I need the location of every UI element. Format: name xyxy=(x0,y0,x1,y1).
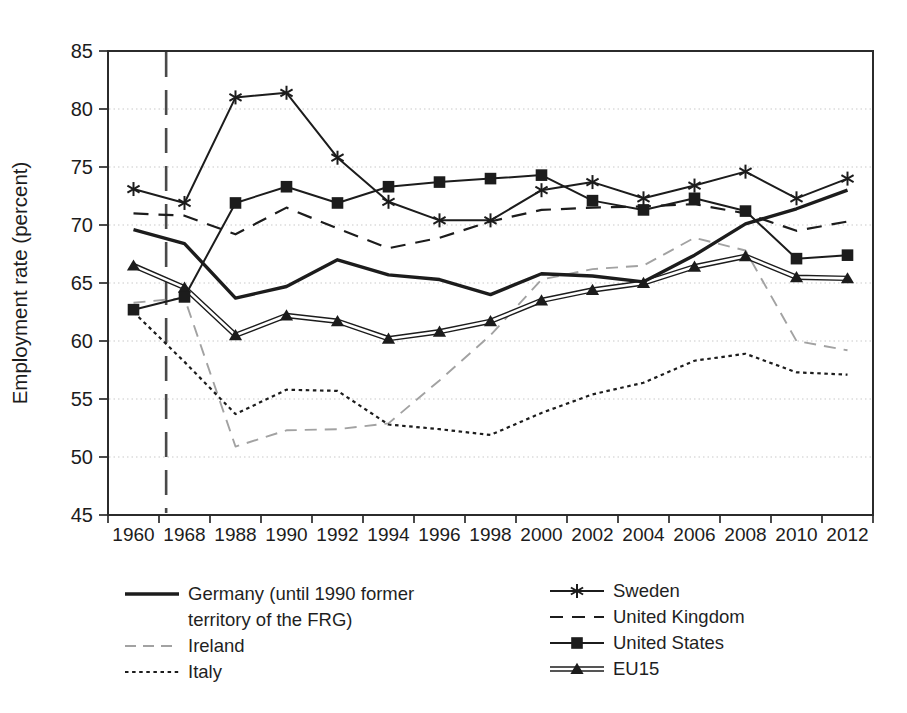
y-tick-label-50: 50 xyxy=(71,446,93,468)
legend-item-italy: Italy xyxy=(124,659,446,685)
legend-item-sweden: Sweden xyxy=(549,578,879,604)
plot-area: 4550556065707580851960196819881990199219… xyxy=(71,40,873,545)
x-tick-label-2008: 2008 xyxy=(724,524,766,545)
x-tick-label-1988: 1988 xyxy=(214,524,256,545)
scanned-figure-page: Employment rate (percent) 45505560657075… xyxy=(0,0,907,713)
x-tick-label-1990: 1990 xyxy=(265,524,307,545)
x-tick-label-2004: 2004 xyxy=(622,524,665,545)
ireland-swatch-icon xyxy=(124,635,180,657)
legend-label-united-kingdom: United Kingdom xyxy=(613,604,879,630)
x-tick-label-2010: 2010 xyxy=(775,524,817,545)
x-tick-label-1960: 1960 xyxy=(112,524,154,545)
x-tick-label-1998: 1998 xyxy=(469,524,511,545)
italy-swatch-icon xyxy=(124,661,180,683)
x-axis-labels: 1960196819881990199219941996199820002002… xyxy=(112,524,868,545)
x-tick-label-2000: 2000 xyxy=(520,524,562,545)
legend-item-ireland: Ireland xyxy=(124,633,446,659)
legend-item-germany: Germany (until 1990 former territory of … xyxy=(124,581,446,633)
legend-label-united-states: United States xyxy=(613,630,879,656)
legend-label-eu15: EU15 xyxy=(613,656,879,682)
legend-item-eu15: EU15 xyxy=(549,656,879,682)
x-tick-label-1968: 1968 xyxy=(163,524,205,545)
y-tick-label-70: 70 xyxy=(71,214,93,236)
y-axis-title: Employment rate (percent) xyxy=(8,162,31,405)
legend-column-left: Germany (until 1990 former territory of … xyxy=(124,581,446,685)
y-tick-label-65: 65 xyxy=(71,272,93,294)
legend-label-germany: Germany (until 1990 former territory of … xyxy=(188,581,446,633)
y-tick-label-80: 80 xyxy=(71,98,93,120)
legend-label-sweden: Sweden xyxy=(613,578,879,604)
x-tick-label-1994: 1994 xyxy=(367,524,410,545)
y-tick-label-85: 85 xyxy=(71,40,93,62)
legend-item-united-kingdom: United Kingdom xyxy=(549,604,879,630)
united-kingdom-swatch-icon xyxy=(549,606,605,628)
eu15-swatch-icon xyxy=(549,658,605,680)
united-states-swatch-icon xyxy=(549,632,605,654)
sweden-swatch-icon xyxy=(549,580,605,602)
x-tick-label-2006: 2006 xyxy=(673,524,715,545)
x-tick-label-2002: 2002 xyxy=(571,524,613,545)
y-tick-label-45: 45 xyxy=(71,504,93,526)
germany-swatch-icon xyxy=(124,583,180,605)
x-axis-ticks xyxy=(108,515,873,523)
y-tick-label-60: 60 xyxy=(71,330,93,352)
y-axis-labels: 455055606570758085 xyxy=(71,40,93,526)
legend-label-italy: Italy xyxy=(188,659,446,685)
series-line-ireland xyxy=(134,238,848,447)
series-line-united-states xyxy=(134,175,848,310)
legend-label-ireland: Ireland xyxy=(188,633,446,659)
y-tick-label-55: 55 xyxy=(71,388,93,410)
x-tick-label-1996: 1996 xyxy=(418,524,460,545)
employment-rate-chart: Employment rate (percent) 45505560657075… xyxy=(0,0,907,562)
x-tick-label-2012: 2012 xyxy=(826,524,868,545)
y-tick-label-75: 75 xyxy=(71,156,93,178)
y-axis-ticks xyxy=(99,51,108,515)
legend-column-right: SwedenUnited KingdomUnited StatesEU15 xyxy=(549,578,879,682)
legend-item-united-states: United States xyxy=(549,630,879,656)
x-tick-label-1992: 1992 xyxy=(316,524,358,545)
